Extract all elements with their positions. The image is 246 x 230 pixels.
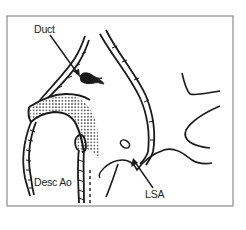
label-duct: Duct bbox=[34, 24, 55, 35]
anatomy-diagram: Duct Desc Ao LSA bbox=[0, 0, 246, 230]
label-desc-ao: Desc Ao bbox=[34, 177, 72, 188]
label-lsa: LSA bbox=[145, 189, 164, 200]
